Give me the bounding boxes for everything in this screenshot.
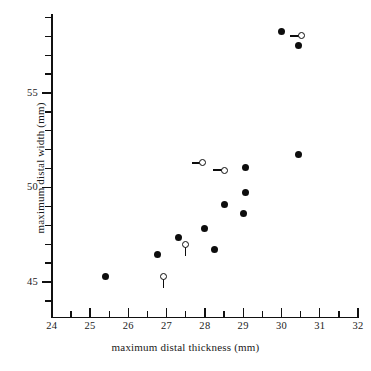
x-axis-tick-label: 24 <box>38 320 66 331</box>
x-axis-tick-label: 29 <box>229 320 257 331</box>
x-axis-minor-tick <box>70 311 71 317</box>
x-axis-minor-tick <box>223 311 224 317</box>
x-axis-major-tick <box>243 308 244 317</box>
data-point-filled <box>102 273 109 280</box>
x-axis-title: maximum distal thickness (mm) <box>0 341 371 353</box>
x-axis-tick-label: 28 <box>191 320 219 331</box>
x-axis-tick-label: 31 <box>306 320 334 331</box>
data-point-filled <box>201 225 208 232</box>
x-axis-tick-label: 25 <box>76 320 104 331</box>
data-point-filled <box>242 164 249 171</box>
data-point-filled <box>221 201 228 208</box>
data-point-filled <box>295 42 302 49</box>
data-point-open <box>182 241 189 248</box>
data-point-filled <box>278 28 285 35</box>
data-point-open <box>221 167 228 174</box>
marker-leader-line <box>163 279 164 288</box>
data-point-open <box>160 273 167 280</box>
x-axis-minor-tick <box>300 311 301 317</box>
x-axis-major-tick <box>319 308 320 317</box>
x-axis-major-tick <box>89 308 90 317</box>
data-point-open <box>298 32 305 39</box>
y-axis-minor-tick <box>45 17 51 18</box>
y-axis-title: maximum distal width (mm) <box>34 23 46 313</box>
y-axis-line <box>51 14 53 318</box>
x-axis-major-tick <box>281 308 282 317</box>
plot-area: 455055 242526272829303132 <box>0 0 371 371</box>
data-point-filled <box>242 189 249 196</box>
data-point-open <box>199 159 206 166</box>
data-point-filled <box>240 210 247 217</box>
x-axis-minor-tick <box>147 311 148 317</box>
data-point-filled <box>154 251 161 258</box>
data-point-filled <box>175 234 182 241</box>
x-axis-major-tick <box>51 308 52 317</box>
x-axis-tick-label: 32 <box>344 320 371 331</box>
x-axis-major-tick <box>128 308 129 317</box>
x-axis-major-tick <box>204 308 205 317</box>
x-axis-tick-label: 30 <box>267 320 295 331</box>
x-axis-minor-tick <box>262 311 263 317</box>
x-axis-minor-tick <box>109 311 110 317</box>
x-axis-major-tick <box>357 308 358 317</box>
scatter-plot-figure: 455055 242526272829303132 maximum distal… <box>0 0 371 371</box>
x-axis-tick-label: 27 <box>153 320 181 331</box>
x-axis-minor-tick <box>338 311 339 317</box>
data-point-filled <box>211 246 218 253</box>
data-point-filled <box>295 151 302 158</box>
x-axis-tick-label: 26 <box>114 320 142 331</box>
marker-leader-line <box>185 247 186 256</box>
x-axis-major-tick <box>166 308 167 317</box>
x-axis-minor-tick <box>185 311 186 317</box>
